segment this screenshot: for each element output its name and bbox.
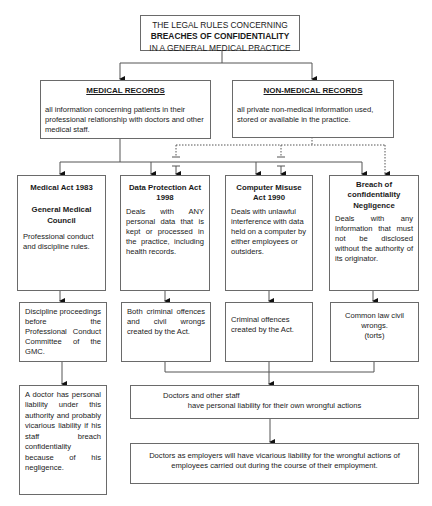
consequence-box-cma: Criminal offences created by the Act. <box>225 302 313 362</box>
gmc-liability-text: A doctor has personal liability under th… <box>25 390 101 472</box>
consequence-box-torts: Common law civil wrongs. (torts) <box>330 302 419 362</box>
consequence-text: Criminal offences created by the Act. <box>231 315 294 334</box>
personal-liability-line-1: Doctors and other staff <box>131 391 418 401</box>
vicarious-liability-box: Doctors as employers will have vicarious… <box>130 443 419 484</box>
title-line-2: BREACHES OF CONFIDENTIALITY <box>141 31 299 42</box>
title-line-3: IN A GENERAL MEDICAL PRACTICE <box>141 43 299 54</box>
personal-liability-box: Doctors and other staff have personal li… <box>130 385 419 419</box>
law-box-breach-negligence: Breach of confidentiality Negligence Dea… <box>329 175 419 291</box>
law-box-computer-misuse: Computer Misuse Act 1990 Deals with unla… <box>225 175 313 291</box>
consequence-box-dpa: Both criminal offences and civil wrongs … <box>121 302 211 362</box>
consequence-text: Both criminal offences and civil wrongs … <box>127 307 205 336</box>
law-description: Deals with any information that must not… <box>330 211 418 268</box>
consequence-box-gmc: Discipline proceedings before the Profes… <box>19 302 107 362</box>
law-description: Deals with ANY personal data that is kep… <box>121 204 209 261</box>
non-medical-records-description: all private non-medical information used… <box>233 105 393 125</box>
title-box: THE LEGAL RULES CONCERNING BREACHES OF C… <box>140 15 300 51</box>
law-title: Breach of confidentiality Negligence <box>330 180 418 211</box>
non-medical-records-heading: NON-MEDICAL RECORDS <box>233 86 393 97</box>
consequence-line-2: (torts) <box>331 331 418 341</box>
vicarious-liability-line-2: employees carried out during the course … <box>131 461 418 471</box>
law-description: Deals with unlawful interference with da… <box>226 204 312 261</box>
law-title: Computer Misuse Act 1990 <box>226 183 312 204</box>
personal-liability-line-2: have personal liability for their own wr… <box>131 401 418 411</box>
medical-records-description: all information concerning patients in t… <box>41 105 210 135</box>
consequence-line-1: Common law civil wrongs. <box>331 311 418 331</box>
law-description: Professional conduct and discipline rule… <box>18 226 105 256</box>
consequence-text: Discipline proceedings before the Profes… <box>25 307 101 356</box>
non-medical-records-box: NON-MEDICAL RECORDS all private non-medi… <box>232 80 394 138</box>
law-title: Medical Act 1983 <box>18 183 105 193</box>
law-box-data-protection: Data Protection Act 1998 Deals with ANY … <box>120 175 210 291</box>
medical-records-heading: MEDICAL RECORDS <box>41 86 210 97</box>
law-subtitle: General Medical Council <box>18 205 105 226</box>
gmc-liability-box: A doctor has personal liability under th… <box>19 385 107 495</box>
law-box-medical-act: Medical Act 1983 General Medical Council… <box>17 175 106 291</box>
title-line-1: THE LEGAL RULES CONCERNING <box>141 20 299 31</box>
medical-records-box: MEDICAL RECORDS all information concerni… <box>40 80 211 139</box>
law-title: Data Protection Act 1998 <box>121 183 209 204</box>
vicarious-liability-line-1: Doctors as employers will have vicarious… <box>131 451 418 461</box>
